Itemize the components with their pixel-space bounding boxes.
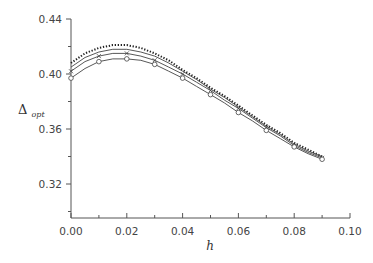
series-circle: [69, 57, 325, 162]
y-tick-label: 0.44: [39, 13, 63, 25]
circle-marker: [264, 128, 269, 133]
series-line: [71, 53, 322, 157]
circle-marker: [152, 62, 157, 67]
y-tick-label: 0.32: [39, 178, 62, 190]
series-line: [71, 45, 322, 156]
line-chart: 0.320.360.400.440.000.020.040.060.080.10…: [0, 0, 373, 263]
circle-marker: [125, 57, 130, 62]
series-group: [69, 45, 325, 161]
x-tick-label: 0.08: [283, 225, 306, 237]
x-tick-label: 0.00: [59, 225, 82, 237]
y-axis-title-sub: opt: [32, 110, 46, 119]
y-tick-label: 0.40: [39, 68, 62, 80]
cross-marker: [181, 72, 185, 76]
x-tick-label: 0.06: [227, 225, 251, 237]
x-axis-title: h: [206, 239, 214, 253]
circle-marker: [236, 110, 241, 115]
series-line: [71, 59, 322, 159]
circle-marker: [69, 76, 74, 81]
circle-marker: [97, 59, 102, 64]
series-plain: [71, 49, 322, 156]
circle-marker: [180, 76, 185, 81]
axes: 0.320.360.400.440.000.020.040.060.080.10: [39, 13, 362, 237]
circle-marker: [292, 145, 297, 150]
circle-marker: [208, 92, 213, 97]
x-tick-label: 0.10: [338, 225, 361, 237]
x-tick-label: 0.02: [115, 225, 138, 237]
y-tick-label: 0.36: [39, 123, 63, 135]
circle-marker: [320, 157, 325, 162]
x-tick-label: 0.04: [171, 225, 195, 237]
series-line: [71, 49, 322, 156]
series-dotted: [71, 45, 322, 156]
y-axis-title-main: Δ: [18, 102, 27, 117]
series-cross: [69, 51, 324, 160]
y-axis-title: Δ opt: [18, 102, 45, 119]
